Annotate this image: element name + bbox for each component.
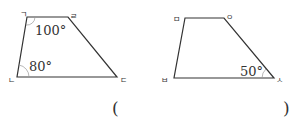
angle-label-50: 50° bbox=[240, 64, 263, 79]
vertex-label-ieung: ㅇ bbox=[226, 13, 233, 22]
angle-arc-bottom-left bbox=[19, 65, 29, 77]
angle-label-100: 100° bbox=[35, 23, 66, 38]
trapezoid-left: ㄱ ㄹ ㄴ ㄷ 100° 80° bbox=[8, 10, 127, 85]
answer-paren-open: ( bbox=[112, 100, 119, 117]
vertex-label-rieul: ㄹ bbox=[70, 12, 77, 21]
trapezoid-right: ㅁ ㅇ ㅂ ㅅ 50° bbox=[161, 13, 283, 85]
vertex-label-mieum: ㅁ bbox=[173, 15, 180, 24]
vertex-label-siot: ㅅ bbox=[276, 76, 283, 85]
vertex-label-giyeok: ㄱ bbox=[20, 10, 27, 19]
vertex-label-nieun: ㄴ bbox=[8, 76, 15, 85]
trapezoids-diagram: ㄱ ㄹ ㄴ ㄷ 100° 80° ㅁ ㅇ ㅂ ㅅ 50° bbox=[0, 0, 294, 122]
angle-label-80: 80° bbox=[29, 59, 52, 74]
vertex-label-bieup: ㅂ bbox=[161, 76, 168, 85]
vertex-label-digeut: ㄷ bbox=[120, 76, 127, 85]
answer-paren-close: ) bbox=[283, 100, 290, 117]
